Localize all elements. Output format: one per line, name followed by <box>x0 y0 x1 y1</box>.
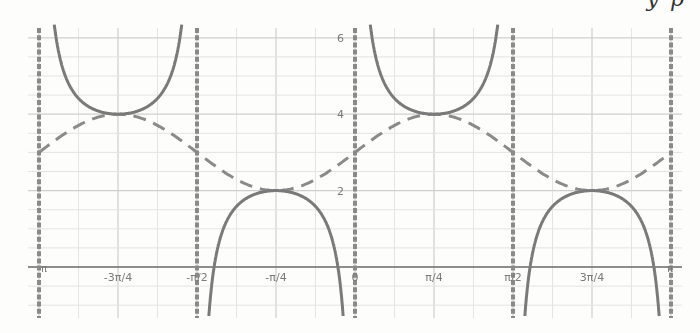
x-tick-label: 3π/4 <box>580 271 604 284</box>
tick-labels: π-3π/4-π/2-π/40π/4π/23π/4π246 <box>41 32 673 284</box>
x-tick-label: 0 <box>352 271 359 284</box>
cropped-heading-text: y p <box>646 0 686 11</box>
x-tick-label: π <box>667 263 673 274</box>
x-tick-label: π/4 <box>425 271 442 284</box>
graph-figure: π-3π/4-π/2-π/40π/4π/23π/4π246 <box>0 0 700 333</box>
y-tick-label: 6 <box>337 32 344 45</box>
x-tick-label: -π/4 <box>265 271 286 284</box>
y-tick-label: 2 <box>337 185 344 198</box>
x-tick-label: -3π/4 <box>104 271 132 284</box>
x-tick-label: -π/2 <box>186 271 207 284</box>
function-plot: π-3π/4-π/2-π/40π/4π/23π/4π246 <box>0 0 700 333</box>
y-tick-label: 4 <box>337 108 344 121</box>
x-tick-label: π/2 <box>504 271 521 284</box>
x-tick-label: π <box>41 263 47 274</box>
